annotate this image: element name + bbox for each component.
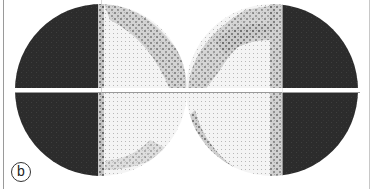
right-eye-field <box>184 0 372 189</box>
horizontal-meridian <box>15 88 360 92</box>
left-eye-field <box>10 0 190 189</box>
visual-field-plots <box>0 0 373 189</box>
panel-label: b <box>11 162 31 182</box>
